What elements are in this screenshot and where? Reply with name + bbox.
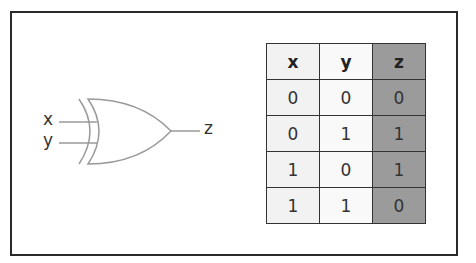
cell-z: 1: [373, 152, 426, 188]
xor-back-curve: [79, 99, 90, 164]
cell-z: 0: [373, 80, 426, 116]
table-row: 1 1 0: [267, 188, 426, 224]
cell-x: 0: [267, 116, 320, 152]
table-row: 0 1 1: [267, 116, 426, 152]
header-z: z: [373, 44, 426, 80]
table-row: 1 0 1: [267, 152, 426, 188]
table-row: 0 0 0: [267, 80, 426, 116]
cell-y: 0: [320, 152, 373, 188]
cell-y: 1: [320, 116, 373, 152]
or-body: [88, 99, 171, 164]
cell-x: 1: [267, 152, 320, 188]
header-y: y: [320, 44, 373, 80]
input-label-x: x: [43, 111, 53, 128]
table-header-row: x y z: [267, 44, 426, 80]
header-x: x: [267, 44, 320, 80]
cell-y: 0: [320, 80, 373, 116]
input-label-y: y: [43, 132, 53, 149]
cell-z: 1: [373, 116, 426, 152]
cell-z: 0: [373, 188, 426, 224]
truth-table: x y z 0 0 0 0 1 1 1 0 1 1 1 0: [266, 43, 426, 224]
cell-x: 0: [267, 80, 320, 116]
cell-x: 1: [267, 188, 320, 224]
output-label-z: z: [204, 120, 213, 137]
cell-y: 1: [320, 188, 373, 224]
